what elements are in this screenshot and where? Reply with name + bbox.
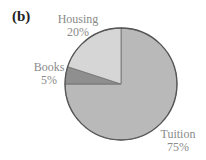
label-tuition-percent: 75%	[158, 141, 198, 154]
label-housing-percent: 20%	[56, 26, 100, 39]
label-housing: Housing 20%	[56, 13, 100, 39]
label-tuition: Tuition 75%	[158, 128, 198, 154]
label-books-percent: 5%	[32, 74, 66, 87]
label-books: Books 5%	[32, 61, 66, 87]
